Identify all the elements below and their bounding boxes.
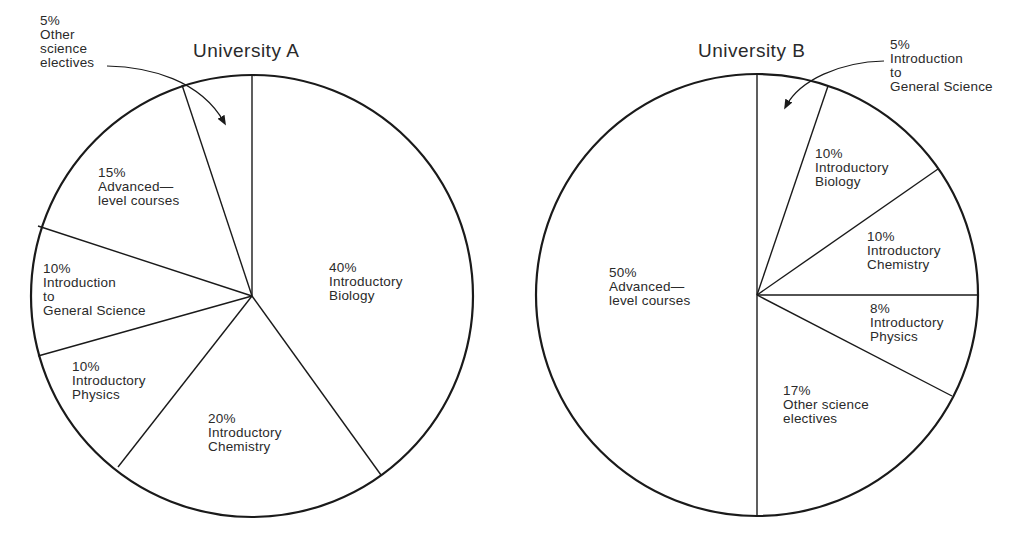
- slice-label-other-electives-b: 17% Other science electives: [783, 384, 869, 426]
- slice-label-physics-a: 10% Introductory Physics: [72, 360, 146, 402]
- chart-title-university-a: University A: [193, 40, 299, 62]
- arrow-icon: [107, 66, 224, 122]
- slice-label-chemistry-b: 10% Introductory Chemistry: [867, 230, 941, 272]
- slice-label-other-electives-a: 5% Other science electives: [40, 14, 94, 70]
- slice-label-advanced-b: 50% Advanced— level courses: [609, 266, 690, 308]
- slice-label-chemistry-a: 20% Introductory Chemistry: [208, 412, 282, 454]
- slice-label-biology-a: 40% Introductory Biology: [329, 261, 403, 303]
- slice-label-general-science-b: 5% Introduction to General Science: [890, 38, 993, 94]
- slice-label-physics-b: 8% Introductory Physics: [870, 302, 944, 344]
- pie-university-b: [536, 61, 978, 516]
- slice-label-advanced-a: 15% Advanced— level courses: [98, 166, 179, 208]
- chart-title-university-b: University B: [698, 40, 805, 62]
- arrow-icon: [786, 61, 884, 106]
- slice-label-general-science-a: 10% Introduction to General Science: [43, 262, 146, 318]
- slice-label-biology-b: 10% Introductory Biology: [815, 147, 889, 189]
